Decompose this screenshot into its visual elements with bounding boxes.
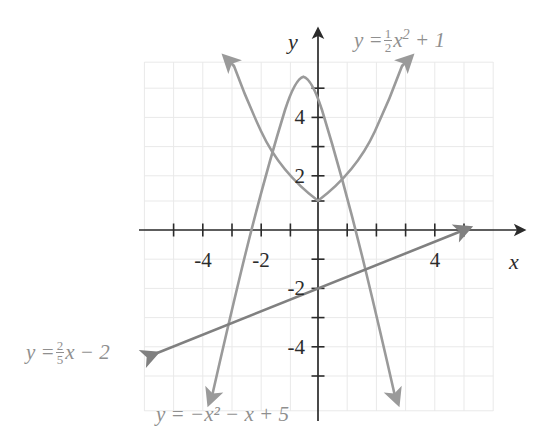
- graph-figure: -4 -2 4 4 2 -2 -4 y x y =12x2 + 1 y = −x…: [0, 0, 545, 446]
- eq-up-variable: x: [393, 28, 402, 52]
- eq-line-variable: x: [65, 340, 74, 364]
- eq-up-numerator: 1: [384, 27, 393, 41]
- eq-up-prefix: y =: [354, 28, 383, 52]
- ytick-label-minus4: -4: [268, 337, 305, 358]
- y-axis: [312, 33, 325, 421]
- y-axis-label: y: [288, 31, 298, 53]
- eq-up-fraction: 12: [384, 27, 393, 55]
- eq-line-numerator: 2: [56, 339, 65, 353]
- eq-line-denominator: 5: [56, 353, 65, 366]
- xtick-label-minus4: -4: [182, 250, 224, 271]
- xtick-label-minus2: -2: [240, 250, 282, 271]
- eq-up-exponent: 2: [403, 26, 410, 42]
- eq-up-suffix: + 1: [415, 28, 445, 52]
- graph-canvas: [0, 0, 545, 446]
- eq-line-fraction: 25: [56, 339, 65, 367]
- equation-label-parabola-up: y =12x2 + 1: [354, 27, 445, 55]
- eq-line-suffix: − 2: [80, 340, 110, 364]
- ytick-label-minus2: -2: [268, 278, 305, 299]
- eq-line-prefix: y =: [26, 340, 55, 364]
- x-axis-label: x: [509, 251, 519, 273]
- ytick-label-2: 2: [281, 166, 305, 187]
- equation-label-parabola-down: y = −x² − x + 5: [156, 404, 289, 425]
- xtick-label-4: 4: [423, 250, 447, 271]
- ytick-label-4: 4: [281, 107, 305, 128]
- equation-label-line: y =25x − 2: [26, 339, 110, 367]
- eq-up-denominator: 2: [384, 41, 393, 54]
